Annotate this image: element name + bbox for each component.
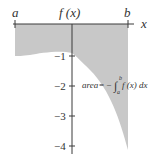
x-axis-label: x [140, 16, 147, 31]
chart-canvas: a b x f (x) −1 −2 −3 −4 area = − ∫ b a f… [0, 0, 156, 162]
area-word: area [82, 80, 99, 90]
x-tick-label-b: b [124, 5, 131, 20]
integrand: f (x) dx [122, 80, 147, 90]
y-tick-label-m1: −1 [54, 50, 66, 62]
y-tick-label-m3: −3 [54, 110, 66, 122]
area-equals: = − [99, 80, 111, 90]
y-tick-label-m4: −4 [54, 140, 66, 152]
x-tick-label-a: a [12, 5, 19, 20]
integral-lower-limit: a [117, 89, 120, 95]
y-tick-label-m2: −2 [54, 80, 66, 92]
y-axis-label: f (x) [59, 5, 80, 20]
